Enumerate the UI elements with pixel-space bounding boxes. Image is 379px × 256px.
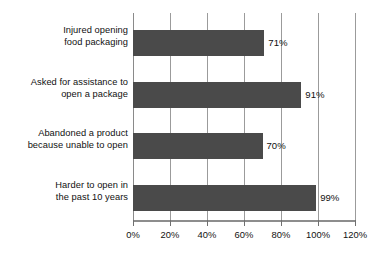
category-label-line: the past 10 years bbox=[0, 192, 128, 204]
x-axis-tick-label: 60% bbox=[235, 229, 254, 240]
gridline bbox=[318, 13, 319, 220]
bar bbox=[133, 185, 316, 211]
category-label: Harder to open in the past 10 years bbox=[0, 180, 128, 203]
bar-chart: Injured opening food packaging Asked for… bbox=[0, 0, 379, 256]
bar-value-label: 91% bbox=[305, 90, 324, 100]
x-axis-tick-label: 120% bbox=[343, 229, 367, 240]
gridline bbox=[355, 13, 356, 220]
x-axis-tick bbox=[133, 220, 134, 226]
plot-area bbox=[133, 13, 355, 220]
x-axis-tick bbox=[318, 220, 319, 226]
bar bbox=[133, 133, 263, 159]
x-axis-tick bbox=[355, 220, 356, 226]
x-axis-tick-label: 40% bbox=[198, 229, 217, 240]
x-axis-tick bbox=[207, 220, 208, 226]
bar-value-label: 99% bbox=[320, 193, 339, 203]
bar-value-label: 70% bbox=[267, 141, 286, 151]
x-axis-tick bbox=[170, 220, 171, 226]
x-axis-tick-label: 100% bbox=[306, 229, 330, 240]
category-label-line: because unable to open bbox=[0, 140, 128, 152]
bar bbox=[133, 82, 301, 108]
x-axis-tick-label: 80% bbox=[272, 229, 291, 240]
bar bbox=[133, 30, 264, 56]
category-label-line: Injured opening bbox=[0, 25, 128, 37]
category-axis-labels: Injured opening food packaging Asked for… bbox=[0, 13, 131, 220]
category-label-line: Harder to open in bbox=[0, 180, 128, 192]
category-label: Asked for assistance to open a package bbox=[0, 77, 128, 100]
x-axis-tick-label: 20% bbox=[161, 229, 180, 240]
category-label-line: food packaging bbox=[0, 37, 128, 49]
category-label: Abandoned a product because unable to op… bbox=[0, 128, 128, 151]
x-axis-tick bbox=[281, 220, 282, 226]
x-axis-tick-label: 0% bbox=[126, 229, 140, 240]
category-label-line: open a package bbox=[0, 89, 128, 101]
category-label: Injured opening food packaging bbox=[0, 25, 128, 48]
category-label-line: Abandoned a product bbox=[0, 128, 128, 140]
bar-value-label: 71% bbox=[268, 38, 287, 48]
category-label-line: Asked for assistance to bbox=[0, 77, 128, 89]
x-axis-tick bbox=[244, 220, 245, 226]
